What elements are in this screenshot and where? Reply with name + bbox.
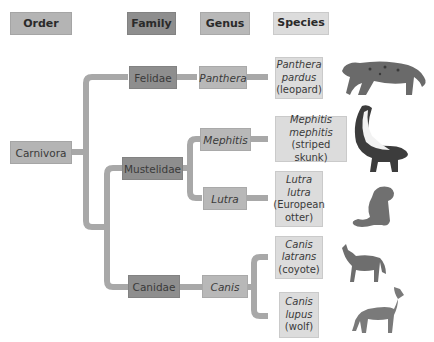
species-epithet: latrans: [282, 251, 317, 264]
species-epithet: pardus: [282, 72, 316, 85]
header-order: Order: [10, 12, 72, 35]
species-epithet: mephitis: [289, 127, 332, 140]
leopard-illustration: [340, 55, 430, 100]
wolf-illustration: [348, 285, 408, 337]
coyote-illustration: [340, 240, 390, 285]
species-genus-name: Canis: [285, 239, 312, 252]
species-common-name: (striped skunk): [276, 139, 346, 164]
connector-mustelidae-canidae: [107, 168, 128, 287]
species-node-canis-lupus: Canis lupus (wolf): [279, 292, 319, 338]
family-node-mustelidae: Mustelidae: [122, 157, 183, 180]
genus-node-mephitis: Mephitis: [200, 128, 251, 151]
skunk-illustration: [350, 102, 410, 177]
species-common-name: (coyote): [278, 264, 320, 277]
species-genus-name: Canis: [285, 296, 312, 309]
genus-node-canis: Canis: [202, 275, 248, 298]
header-genus: Genus: [200, 12, 250, 35]
family-node-canidae: Canidae: [128, 275, 180, 298]
species-epithet: lutra: [287, 187, 310, 200]
order-node-carnivora: Carnivora: [10, 141, 72, 164]
genus-node-lutra: Lutra: [203, 187, 247, 210]
family-node-felidae: Felidae: [129, 66, 177, 89]
species-common-name: (European: [273, 199, 325, 212]
species-genus-name: Lutra: [286, 174, 312, 187]
species-node-panthera-pardus: Panthera pardus (leopard): [275, 57, 323, 99]
otter-illustration: [348, 183, 400, 233]
species-genus-name: Mephitis: [290, 114, 332, 127]
connector-canis-branch: [254, 257, 268, 316]
header-family: Family: [127, 12, 176, 35]
species-node-lutra-lutra: Lutra lutra (European otter): [275, 171, 323, 227]
species-common-name: (leopard): [276, 84, 322, 97]
species-node-canis-latrans: Canis latrans (coyote): [275, 236, 323, 279]
species-genus-name: Panthera: [276, 59, 321, 72]
genus-node-panthera: Panthera: [199, 66, 247, 89]
species-common-name: (wolf): [285, 321, 313, 334]
species-epithet: lupus: [285, 309, 312, 322]
species-node-mephitis-mephitis: Mephitis mephitis (striped skunk): [275, 116, 347, 162]
header-species: Species: [273, 12, 329, 35]
species-common-name-cont: otter): [285, 212, 313, 225]
